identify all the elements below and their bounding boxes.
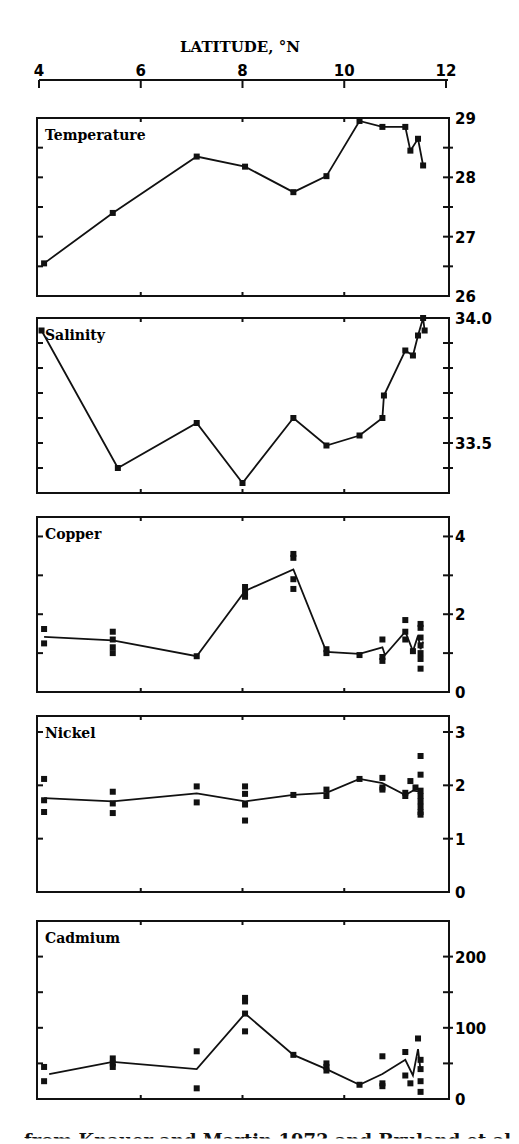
data-point <box>110 629 116 635</box>
data-point <box>418 1078 424 1084</box>
multi-panel-latitude-chart: 4681012 LATITUDE, °N 26272829Temperature… <box>0 0 519 1144</box>
data-point <box>242 791 248 797</box>
data-point <box>242 1028 248 1034</box>
data-point <box>41 776 47 782</box>
data-point <box>110 637 116 643</box>
y-tick-label: 26 <box>455 288 476 306</box>
x-tick-label: 8 <box>237 62 247 80</box>
data-point <box>418 625 424 631</box>
data-point <box>402 124 408 130</box>
data-point <box>418 650 424 656</box>
data-point <box>357 652 363 658</box>
data-point <box>402 790 408 796</box>
data-point <box>323 1068 329 1074</box>
y-tick-label: 2 <box>455 606 465 624</box>
panel-label: Cadmium <box>45 930 120 946</box>
data-point <box>420 315 426 321</box>
data-point <box>422 328 428 334</box>
y-tick-label: 3 <box>455 724 465 742</box>
data-point <box>418 772 424 778</box>
y-tick-label: 34.0 <box>455 310 492 328</box>
panel-label: Temperature <box>45 127 146 143</box>
x-axis-title: LATITUDE, °N <box>180 38 300 56</box>
data-point <box>379 775 385 781</box>
panel-label: Nickel <box>45 725 96 741</box>
data-point <box>41 809 47 815</box>
panel-frame <box>37 318 449 493</box>
panel-frame <box>37 118 449 296</box>
data-point <box>407 1080 413 1086</box>
data-point <box>41 260 47 266</box>
y-tick-label: 200 <box>455 949 486 967</box>
data-point <box>194 1048 200 1054</box>
data-point <box>418 812 424 818</box>
data-point <box>410 648 416 654</box>
y-tick-label: 0 <box>455 884 465 902</box>
latitude-axis: 4681012 <box>34 62 457 88</box>
data-point <box>420 162 426 168</box>
data-point <box>323 443 329 449</box>
data-point <box>242 594 248 600</box>
data-point <box>418 804 424 810</box>
y-tick-label: 29 <box>455 110 476 128</box>
data-point <box>242 584 248 590</box>
data-point <box>110 810 116 816</box>
chart-panels: 26272829Temperature33.534.0Salinity024Co… <box>37 110 492 1109</box>
data-point <box>110 644 116 650</box>
y-tick-label: 27 <box>455 229 476 247</box>
data-point <box>379 1083 385 1089</box>
data-line <box>44 570 423 657</box>
data-point <box>418 798 424 804</box>
x-tick-label: 4 <box>34 62 44 80</box>
data-point <box>402 1073 408 1079</box>
data-line <box>44 779 420 801</box>
data-point <box>323 173 329 179</box>
data-point <box>418 793 424 799</box>
data-point <box>415 333 421 339</box>
data-point <box>418 1066 424 1072</box>
data-point <box>357 433 363 439</box>
data-point <box>418 666 424 672</box>
y-tick-label: 2 <box>455 777 465 795</box>
data-point <box>290 189 296 195</box>
data-point <box>290 415 296 421</box>
data-point <box>194 154 200 160</box>
data-point <box>41 640 47 646</box>
data-point <box>415 1035 421 1041</box>
data-point <box>402 1049 408 1055</box>
data-point <box>242 783 248 789</box>
data-point <box>415 136 421 142</box>
data-point <box>290 1052 296 1058</box>
data-point <box>290 555 296 561</box>
data-point <box>242 802 248 808</box>
data-point <box>110 650 116 656</box>
data-point <box>418 1057 424 1063</box>
data-point <box>379 637 385 643</box>
data-point <box>110 1064 116 1070</box>
data-point <box>290 586 296 592</box>
data-point <box>41 1064 47 1070</box>
y-tick-label: 0 <box>455 1091 465 1109</box>
panel-temperature: 26272829Temperature <box>37 110 476 306</box>
data-point <box>357 118 363 124</box>
panel-label: Copper <box>45 526 102 542</box>
data-point <box>242 818 248 824</box>
panel-cadmium: 0100200Cadmium <box>37 921 486 1109</box>
data-point <box>242 164 248 170</box>
data-point <box>357 1082 363 1088</box>
data-point <box>418 642 424 648</box>
data-point <box>379 658 385 664</box>
y-tick-label: 28 <box>455 169 476 187</box>
data-point <box>418 753 424 759</box>
panel-salinity: 33.534.0Salinity <box>37 310 492 493</box>
x-tick-label: 10 <box>334 62 355 80</box>
data-point <box>194 420 200 426</box>
data-point <box>379 415 385 421</box>
data-point <box>323 793 329 799</box>
data-point <box>41 1078 47 1084</box>
data-point <box>110 800 116 806</box>
data-point <box>402 348 408 354</box>
data-point <box>41 797 47 803</box>
data-point <box>418 635 424 641</box>
data-point <box>194 799 200 805</box>
